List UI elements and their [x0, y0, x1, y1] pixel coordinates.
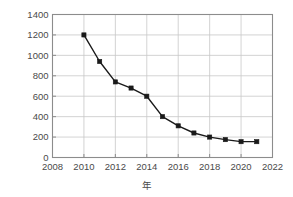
svg-text:200: 200: [33, 131, 49, 142]
svg-text:2018: 2018: [199, 161, 220, 172]
y-tick-labels: 0200400600800100012001400: [27, 9, 48, 163]
svg-text:600: 600: [33, 91, 49, 102]
svg-text:2008: 2008: [42, 161, 63, 172]
x-axis-title: 年: [0, 178, 293, 192]
svg-text:1000: 1000: [27, 50, 48, 61]
svg-text:2010: 2010: [73, 161, 94, 172]
data-point-markers: [82, 33, 259, 144]
svg-text:1400: 1400: [27, 9, 48, 20]
svg-text:800: 800: [33, 70, 49, 81]
svg-text:2014: 2014: [136, 161, 157, 172]
svg-text:2022: 2022: [262, 161, 283, 172]
svg-text:2020: 2020: [231, 161, 252, 172]
svg-text:1200: 1200: [27, 29, 48, 40]
chart-plot-area: 0200400600800100012001400 20082010201220…: [0, 0, 293, 197]
cost-per-kwh-line-chart: コスト [$/kWh] 0200400600800100012001400 20…: [0, 0, 293, 197]
data-line-series: [84, 35, 257, 142]
svg-text:2012: 2012: [105, 161, 126, 172]
svg-text:2016: 2016: [168, 161, 189, 172]
x-tick-labels: 20082010201220142016201820202022: [42, 161, 283, 172]
svg-text:400: 400: [33, 111, 49, 122]
